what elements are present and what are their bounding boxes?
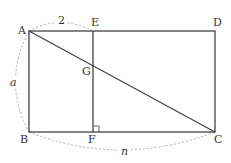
label-B: B [20, 133, 28, 146]
label-C: C [214, 133, 222, 146]
dimension-label-AB: a [10, 76, 17, 89]
geometry-figure: A E D G B F C 2 a n [0, 0, 231, 163]
diagonal-AC [29, 31, 215, 132]
label-G: G [82, 65, 91, 78]
label-F: F [88, 133, 96, 146]
label-A: A [17, 24, 27, 37]
dimension-label-BC: n [121, 145, 128, 158]
dimension-label-AE: 2 [58, 14, 65, 27]
label-D: D [213, 16, 222, 29]
label-E: E [91, 16, 99, 29]
right-angle-mark [93, 126, 99, 132]
diagram: A E D G B F C 2 a n [0, 0, 231, 163]
